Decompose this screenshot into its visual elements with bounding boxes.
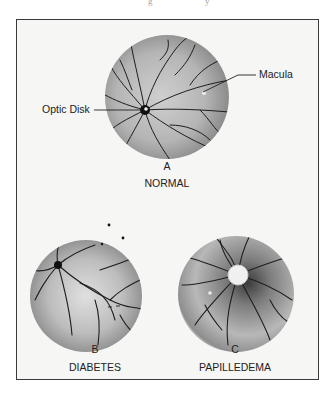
panel-a-letter: A <box>163 160 170 172</box>
panel-b-letter: B <box>91 343 98 355</box>
optic-disk-label: Optic Disk <box>42 103 90 115</box>
panel-a-caption: NORMAL <box>145 177 190 189</box>
panel-b-caption: DIABETES <box>69 361 121 373</box>
fundus-normal <box>94 30 256 160</box>
panel-c-letter: C <box>231 343 239 355</box>
panel-c-caption: PAPILLEDEMA <box>199 361 271 373</box>
fundus-illustrations <box>0 0 333 395</box>
fundus-diabetes <box>30 224 145 352</box>
fundus-papilledema <box>178 235 294 352</box>
macula-label: Macula <box>259 68 293 80</box>
